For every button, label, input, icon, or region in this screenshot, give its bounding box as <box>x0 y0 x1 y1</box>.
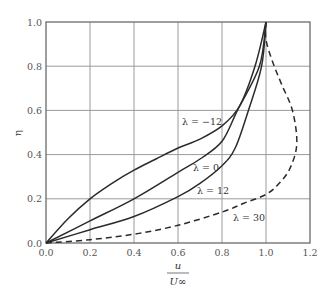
x-tick-label: 0.0 <box>38 247 53 258</box>
x-tick-label: 0.2 <box>82 247 97 258</box>
x-tick-label: 0.6 <box>170 247 185 258</box>
x-tick-label: 0.4 <box>126 247 141 258</box>
annotation-lambda-0: λ = 0 <box>193 162 219 173</box>
y-tick-label: 0.2 <box>27 193 42 204</box>
annotation-lambda-12: λ = 12 <box>197 185 229 196</box>
profile-curves <box>46 22 297 243</box>
y-tick-label: 0.0 <box>27 238 42 249</box>
y-tick-label: 0.8 <box>27 61 42 72</box>
y-tick-label: 0.4 <box>27 149 42 160</box>
curve-m12 <box>46 22 266 243</box>
annotation-lambda-m12: λ = −12 <box>182 116 222 127</box>
x-axis-label: u U∞ <box>167 260 189 287</box>
x-tick-label: 1.0 <box>258 247 273 258</box>
x-axis-label-denominator: U∞ <box>170 276 187 287</box>
curve-12 <box>46 22 266 243</box>
x-axis-ticks: 0.00.20.40.60.81.01.2 <box>38 247 317 258</box>
y-axis-label: η <box>12 130 23 136</box>
curve-30 <box>46 22 297 243</box>
x-tick-label: 1.2 <box>302 247 317 258</box>
y-tick-label: 1.0 <box>27 17 42 28</box>
curve-0 <box>46 22 266 243</box>
y-tick-label: 0.6 <box>27 105 42 116</box>
y-axis-ticks: 0.00.20.40.60.81.0 <box>27 17 42 249</box>
annotation-lambda-30: λ = 30 <box>233 212 265 223</box>
x-axis-label-numerator: u <box>175 260 181 271</box>
x-tick-label: 0.8 <box>214 247 229 258</box>
velocity-profile-chart: 0.00.20.40.60.81.01.2 0.00.20.40.60.81.0… <box>0 0 330 303</box>
